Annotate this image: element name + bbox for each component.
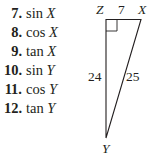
side-label-xy: 25 [126,69,140,84]
vertex-label-y: Y [102,141,111,156]
right-triangle-diagram: Z 7 X 24 25 Y [0,0,149,156]
side-label-zy: 24 [88,69,102,84]
side-label-zx: 7 [118,2,125,17]
right-angle-marker [106,20,117,32]
vertex-label-z: Z [96,2,104,17]
vertex-label-x: X [137,2,147,17]
